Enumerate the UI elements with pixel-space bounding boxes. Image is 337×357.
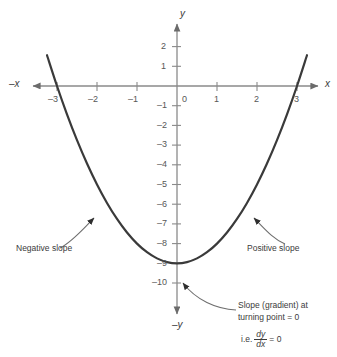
y-tick-label--6: –6 bbox=[157, 200, 167, 209]
derivative-denominator: dx bbox=[254, 339, 267, 349]
x-tick-label-3: 3 bbox=[294, 95, 299, 104]
positive-slope-leader bbox=[254, 218, 285, 244]
graph-figure: –x x y –y –3 –2 –1 0 1 2 3 2 1 –1 –2 –3 … bbox=[0, 0, 337, 357]
x-tick-label--2: –2 bbox=[88, 95, 98, 104]
positive-slope-annotation: Positive slope bbox=[247, 244, 299, 253]
y-tick-label--7: –7 bbox=[157, 219, 167, 228]
x-tick-label-1: 1 bbox=[214, 95, 219, 104]
y-tick-label--8: –8 bbox=[157, 239, 167, 248]
derivative-prefix: i.e. bbox=[241, 335, 252, 344]
x-tick-label-2: 2 bbox=[254, 95, 259, 104]
y-tick-label--9: –9 bbox=[157, 259, 167, 268]
derivative-expression: i.e. dy dx = 0 bbox=[241, 330, 281, 349]
y-tick-label--10: –10 bbox=[152, 278, 167, 287]
y-tick-label--1: –1 bbox=[157, 101, 167, 110]
turning-point-annotation-line1: Slope (gradient) at bbox=[238, 301, 308, 310]
y-axis-positive-label: y bbox=[180, 9, 185, 19]
y-tick-label--2: –2 bbox=[157, 121, 167, 130]
y-tick-label-2: 2 bbox=[161, 42, 166, 51]
x-tick-label--3: –3 bbox=[48, 95, 58, 104]
derivative-fraction: dy dx bbox=[254, 330, 267, 349]
x-axis-negative-label: –x bbox=[9, 79, 20, 89]
turning-point-annotation-line2: turning point = 0 bbox=[238, 313, 299, 322]
negative-slope-annotation: Negative slope bbox=[16, 244, 72, 253]
y-tick-label--5: –5 bbox=[157, 180, 167, 189]
x-axis-positive-label: x bbox=[325, 79, 330, 89]
y-tick-label--4: –4 bbox=[157, 160, 167, 169]
y-tick-label-1: 1 bbox=[161, 62, 166, 71]
turning-point-leader bbox=[183, 283, 236, 310]
x-tick-label-0: 0 bbox=[182, 95, 187, 104]
y-axis-negative-label: –y bbox=[172, 320, 183, 330]
x-tick-label--1: –1 bbox=[128, 95, 138, 104]
derivative-equals: = 0 bbox=[269, 335, 281, 344]
derivative-numerator: dy bbox=[254, 330, 267, 339]
y-tick-label--3: –3 bbox=[157, 140, 167, 149]
